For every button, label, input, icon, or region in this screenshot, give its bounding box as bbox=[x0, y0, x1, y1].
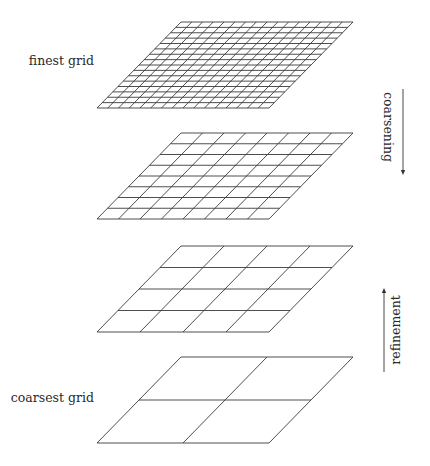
grid-stack bbox=[97, 22, 353, 443]
coarsest-grid-label: coarsest grid bbox=[11, 392, 94, 405]
grid-level-2 bbox=[97, 133, 353, 219]
coarsening-arrow-icon bbox=[401, 89, 405, 175]
refinement-arrow-icon bbox=[382, 288, 386, 372]
refinement-label: refinement bbox=[390, 295, 403, 364]
grid-level-3 bbox=[97, 246, 353, 332]
grid-finest bbox=[97, 22, 353, 108]
coarsening-label: coarsening bbox=[382, 92, 395, 162]
grid-coarsest bbox=[97, 357, 353, 443]
finest-grid-label: finest grid bbox=[29, 55, 94, 68]
